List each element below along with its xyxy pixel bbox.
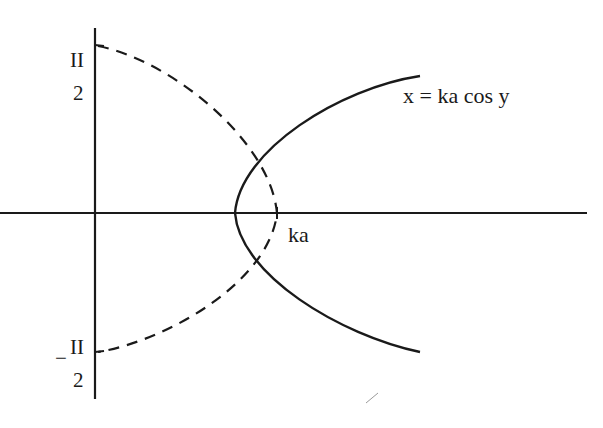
label-bottom-denominator: 2 bbox=[73, 368, 84, 392]
label-top-denominator: 2 bbox=[73, 81, 84, 105]
stray-mark bbox=[366, 393, 378, 403]
dashed-curve bbox=[98, 46, 277, 352]
diagram-canvas: II 2 − II 2 ka x = ka cos y bbox=[0, 0, 603, 428]
label-top-numerator: II bbox=[70, 48, 84, 72]
label-bottom-sign: − bbox=[55, 346, 67, 370]
label-bottom-numerator: II bbox=[70, 335, 84, 359]
curve-label: x = ka cos y bbox=[403, 83, 510, 108]
label-ka: ka bbox=[288, 222, 309, 247]
diagram-svg: II 2 − II 2 ka x = ka cos y bbox=[0, 0, 603, 428]
